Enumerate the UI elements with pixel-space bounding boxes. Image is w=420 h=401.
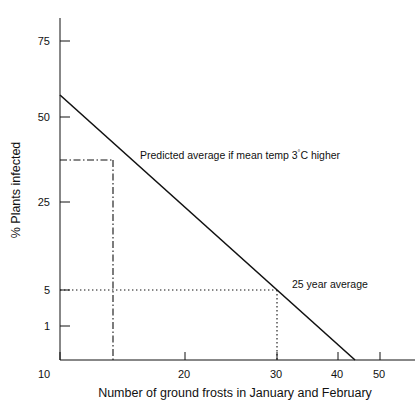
chart-plot-area: 75 50 25 5 1 10 20 30 40 50 Predicted av… [0,0,420,401]
x-axis-title: Number of ground frosts in January and F… [98,386,372,400]
x-tick-label-10: 10 [38,368,50,380]
y-tick-label-25: 25 [38,196,50,208]
y-axis-title: % Plants infected [9,142,23,239]
predicted-average-annotation: Predicted average if mean temp 3°C highe… [140,149,341,161]
predicted-average-annotation-text: Predicted average if mean temp 3 [140,149,298,161]
y-tick-label-5: 5 [44,284,50,296]
chart-container: 75 50 25 5 1 10 20 30 40 50 Predicted av… [0,0,420,401]
y-tick-label-50: 50 [38,111,50,123]
x-tick-label-50: 50 [373,368,385,380]
y-tick-label-75: 75 [38,35,50,47]
average-annotation: 25 year average [292,278,368,290]
fitted-regression-line [60,95,355,360]
x-tick-label-30: 30 [270,368,282,380]
x-tick-label-20: 20 [178,368,190,380]
predicted-average-annotation-tail: C higher [300,149,340,161]
x-tick-label-40: 40 [331,368,343,380]
y-tick-label-1: 1 [44,320,50,332]
